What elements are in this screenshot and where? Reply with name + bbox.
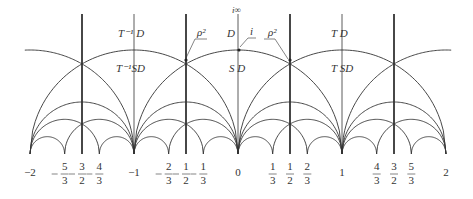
tick-denominator: 3 bbox=[270, 174, 276, 186]
point-label-rho-squared-right: ρ² bbox=[267, 26, 277, 38]
tick-numerator: 1 bbox=[183, 160, 189, 172]
axis-tick-label: 2 bbox=[443, 166, 449, 178]
tick-numerator: 3 bbox=[79, 160, 85, 172]
geodesic-arc bbox=[169, 119, 238, 154]
tick-numerator: 2 bbox=[305, 160, 311, 172]
axis-tick-label: 13 bbox=[269, 160, 277, 186]
tick-numerator: 4 bbox=[97, 160, 103, 172]
geodesic-arc bbox=[273, 119, 342, 154]
tick-denominator: 3 bbox=[97, 174, 103, 186]
tick-value: −1 bbox=[128, 166, 140, 178]
tick-denominator: 3 bbox=[201, 174, 207, 186]
tick-denominator: 3 bbox=[374, 174, 380, 186]
tick-numerator: 2 bbox=[166, 160, 172, 172]
tick-denominator: 3 bbox=[62, 174, 68, 186]
geodesic-arc bbox=[203, 137, 238, 154]
tick-denominator: 3 bbox=[166, 174, 172, 186]
geodesic-arc bbox=[30, 119, 99, 154]
region-label-t-d: T D bbox=[331, 27, 348, 39]
tick-value: 2 bbox=[443, 166, 449, 178]
tick-numerator: 1 bbox=[270, 160, 276, 172]
axis-tick-label: 53 bbox=[52, 160, 69, 186]
geodesic-arc bbox=[342, 137, 377, 154]
axis-tick-label: 53 bbox=[407, 160, 415, 186]
region-label-t-inverse-sd: T⁻¹SD bbox=[116, 62, 145, 74]
axis-tick-label: 23 bbox=[156, 160, 173, 186]
point-label-rho-squared-left: ρ² bbox=[196, 26, 206, 38]
geodesic-arc bbox=[30, 137, 65, 154]
axis-tick-label: 32 bbox=[390, 160, 398, 186]
region-label-d: D bbox=[226, 27, 235, 39]
tick-value: 1 bbox=[339, 166, 345, 178]
point-rho-squared-right bbox=[288, 58, 291, 61]
tick-numerator: 3 bbox=[391, 160, 397, 172]
tick-denominator: 2 bbox=[79, 174, 85, 186]
region-label-s-d: S D bbox=[229, 62, 245, 74]
region-label-t-sd: T SD bbox=[331, 62, 353, 74]
axis-tick-label: 1 bbox=[339, 166, 345, 178]
point-label-i: i bbox=[250, 25, 253, 37]
axis-tick-label: 43 bbox=[86, 160, 103, 186]
axis-tick-label: 12 bbox=[286, 160, 294, 186]
tick-numerator: 5 bbox=[62, 160, 68, 172]
tick-value: 0 bbox=[235, 166, 241, 178]
modular-tessellation-diagram: −2533243−1231213013122314332532 T⁻¹ D T⁻… bbox=[0, 0, 473, 199]
region-label-t-inverse-d: T⁻¹ D bbox=[118, 27, 144, 39]
geodesic-arc bbox=[238, 119, 307, 154]
tick-denominator: 3 bbox=[409, 174, 415, 186]
tick-denominator: 2 bbox=[287, 174, 293, 186]
axis-tick-label: 0 bbox=[235, 166, 241, 178]
point-rho-squared-left bbox=[184, 58, 187, 61]
tick-denominator: 3 bbox=[305, 174, 311, 186]
tick-numerator: 5 bbox=[409, 160, 415, 172]
tick-denominator: 2 bbox=[391, 174, 397, 186]
geodesic-arc bbox=[377, 119, 446, 154]
geodesic-arc bbox=[134, 119, 203, 154]
tick-numerator: 1 bbox=[287, 160, 293, 172]
tick-numerator: 4 bbox=[374, 160, 380, 172]
tick-value: −2 bbox=[24, 166, 36, 178]
geodesic-arc bbox=[307, 137, 342, 154]
point-i bbox=[237, 48, 240, 51]
geodesic-arc bbox=[342, 119, 411, 154]
point-label-i-infinity: i∞ bbox=[232, 5, 241, 15]
axis-tick-label: −1 bbox=[128, 166, 140, 178]
geodesic-arc bbox=[238, 137, 273, 154]
axis-tick-label: 12 bbox=[173, 160, 190, 186]
geodesic-arc bbox=[411, 137, 446, 154]
axis-tick-label: 32 bbox=[69, 160, 86, 186]
geodesic-arc bbox=[65, 119, 134, 154]
axis-tick-label: 43 bbox=[373, 160, 381, 186]
geodesic-arc bbox=[134, 137, 169, 154]
tick-denominator: 2 bbox=[183, 174, 189, 186]
geodesic-arc bbox=[99, 137, 134, 154]
tick-numerator: 1 bbox=[201, 160, 207, 172]
axis-tick-labels: −2533243−1231213013122314332532 bbox=[24, 160, 449, 186]
axis-tick-label: 23 bbox=[303, 160, 311, 186]
axis-tick-label: 13 bbox=[190, 160, 207, 186]
axis-tick-label: −2 bbox=[24, 166, 36, 178]
